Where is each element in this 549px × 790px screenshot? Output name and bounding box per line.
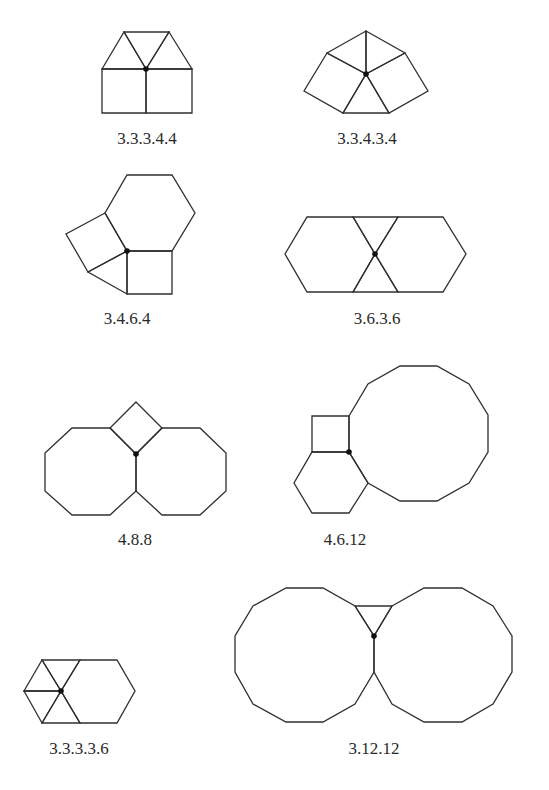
vertex-dot	[346, 449, 352, 455]
figure-label: 4.6.12	[324, 530, 367, 549]
figure-label: 3.4.6.4	[104, 309, 151, 328]
polygon-tile	[375, 217, 466, 292]
figure-label: 3.3.3.3.6	[49, 739, 109, 758]
figure-3-3-4-3-4: 3.3.4.3.4	[304, 31, 428, 148]
polygon-tile	[366, 53, 428, 113]
polygon-tile	[110, 402, 162, 454]
polygon-tile	[136, 428, 226, 515]
figure-4-8-8: 4.8.8	[45, 402, 226, 549]
vertex-dot	[143, 66, 149, 72]
polygon-tile	[353, 217, 398, 254]
polygon-tile	[146, 32, 192, 69]
figure-label: 3.12.12	[349, 739, 400, 758]
polygon-tile	[146, 69, 192, 113]
vertex-dot	[133, 451, 139, 457]
polygon-tile	[24, 660, 61, 691]
polygon-tile	[102, 69, 146, 113]
polygon-tile	[235, 588, 374, 722]
polygon-tile	[349, 366, 488, 501]
figure-label: 3.3.4.3.4	[337, 129, 397, 148]
figure-3-6-3-6: 3.6.3.6	[285, 217, 466, 328]
polygon-tile	[285, 217, 375, 292]
polygon-tile	[42, 691, 80, 723]
polygon-tile	[24, 691, 61, 723]
vertex-dot	[372, 251, 378, 257]
figure-4-6-12: 4.6.12	[294, 366, 488, 549]
polygon-tile	[66, 213, 127, 272]
polygon-tile	[127, 251, 172, 294]
polygon-tile	[355, 606, 392, 636]
polygon-tile	[366, 31, 405, 74]
polygon-tile	[294, 452, 368, 513]
polygon-tile	[304, 53, 366, 113]
vertex-dot	[371, 633, 377, 639]
vertex-dot	[363, 71, 369, 77]
figure-3-4-6-4: 3.4.6.4	[66, 175, 195, 328]
polygon-tile	[61, 660, 135, 723]
polygon-tile	[124, 32, 169, 69]
polygon-tile	[105, 175, 195, 251]
figure-3-3-3-4-4: 3.3.3.4.4	[102, 32, 192, 148]
vertex-dot	[58, 688, 64, 694]
polygon-tile	[312, 416, 349, 452]
polygon-tile	[327, 31, 366, 74]
figure-3-3-3-3-6: 3.3.3.3.6	[24, 660, 135, 758]
polygon-tile	[88, 251, 127, 294]
polygon-tile	[353, 254, 398, 292]
figure-label: 3.3.3.4.4	[117, 129, 177, 148]
polygon-tile	[45, 428, 136, 515]
figure-label: 3.6.3.6	[354, 309, 401, 328]
tiling-vertex-diagram: 3.3.3.4.4 3.3.4.3.4 3.4.6.4 3.6.3.6 4.8.…	[0, 0, 549, 790]
polygon-tile	[374, 588, 512, 722]
polygon-tile	[42, 660, 80, 691]
polygon-tile	[102, 32, 146, 69]
vertex-dot	[124, 248, 130, 254]
figure-3-12-12: 3.12.12	[235, 588, 512, 758]
polygon-tile	[343, 74, 389, 113]
figure-label: 4.8.8	[118, 530, 152, 549]
